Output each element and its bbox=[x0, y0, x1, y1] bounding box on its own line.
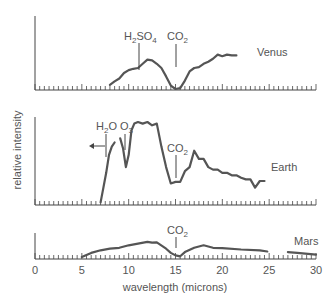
x-tick-label: 20 bbox=[216, 264, 228, 276]
h2so4-annotation-text: H bbox=[124, 30, 132, 42]
x-axis-label: wavelength (microns) bbox=[122, 281, 228, 293]
left-arrow-icon bbox=[89, 143, 94, 149]
mars-spectrum-curve bbox=[288, 252, 316, 255]
o3-annotation: O3 bbox=[120, 120, 134, 135]
co2-annotation-earth: CO2 bbox=[167, 142, 189, 157]
co2-annotation-venus: CO2 bbox=[167, 30, 189, 45]
x-tick-label: 5 bbox=[79, 264, 85, 276]
h2o-annotation-text: H bbox=[96, 120, 104, 132]
x-tick-label: 10 bbox=[123, 264, 135, 276]
h2so4-annotation-subscript: 4 bbox=[152, 36, 157, 45]
h2so4-annotation: H2SO4 bbox=[124, 30, 157, 45]
co2-annotation-mars-subscript: 2 bbox=[184, 230, 189, 239]
co2-annotation-earth-text: CO bbox=[167, 142, 184, 154]
earth-label: Earth bbox=[271, 161, 297, 173]
x-tick-label: 0 bbox=[32, 264, 38, 276]
co2-annotation-venus-text: CO bbox=[167, 30, 184, 42]
mars-label: Mars bbox=[294, 235, 319, 247]
h2o-annotation-text: O bbox=[108, 120, 117, 132]
mars-spectrum-curve bbox=[82, 242, 267, 257]
h2o-annotation: H2O bbox=[96, 120, 117, 135]
co2-annotation-venus-subscript: 2 bbox=[184, 36, 189, 45]
y-axis-label: relative intensity bbox=[11, 110, 23, 189]
co2-annotation-mars: CO2 bbox=[167, 224, 189, 239]
earth-spectrum-curve bbox=[120, 122, 264, 188]
earth-spectrum-curve bbox=[101, 143, 115, 203]
x-tick-label: 25 bbox=[263, 264, 275, 276]
venus-label: Venus bbox=[257, 46, 288, 58]
venus-spectrum-curve bbox=[110, 55, 236, 89]
x-tick-label: 15 bbox=[169, 264, 181, 276]
spectra-chart: VenusEarthMarsH2SO4CO2H2OO3CO2CO20510152… bbox=[0, 0, 334, 305]
co2-annotation-mars-text: CO bbox=[167, 224, 184, 236]
h2so4-annotation-text: SO bbox=[136, 30, 152, 42]
co2-annotation-earth-subscript: 2 bbox=[184, 148, 189, 157]
x-tick-label: 30 bbox=[310, 264, 322, 276]
o3-annotation-subscript: 3 bbox=[129, 126, 134, 135]
